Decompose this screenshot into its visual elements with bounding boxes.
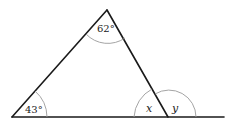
triangle-diagram: 62° 43° x y (0, 0, 235, 122)
apex-angle-arc (86, 34, 125, 43)
apex-angle-label: 62° (97, 23, 115, 34)
left-side (12, 10, 107, 117)
bottom-left-angle-label: 43° (25, 104, 43, 115)
right-side (107, 10, 168, 117)
exterior-right-angle-label: y (171, 102, 179, 115)
interior-right-angle-label: x (146, 102, 153, 115)
